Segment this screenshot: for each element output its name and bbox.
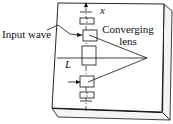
x-axis-label: x bbox=[99, 4, 105, 16]
lens-aperture-lower bbox=[80, 76, 94, 87]
converging-lens-label-line2: lens bbox=[119, 35, 137, 47]
converging-lens-label-line1: Converging bbox=[102, 23, 154, 35]
length-label: L bbox=[64, 58, 71, 70]
input-wave-label: Input wave bbox=[2, 28, 51, 40]
lens-region-L bbox=[82, 46, 96, 65]
waveguide-diagram: x L Input wave Converging lens bbox=[0, 0, 173, 124]
